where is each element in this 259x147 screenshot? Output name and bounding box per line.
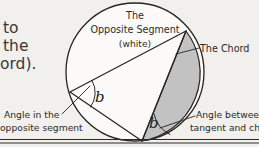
cutoff-line-1: to xyxy=(3,19,19,37)
diagram-page: to the ord). The Opposite Segment (white… xyxy=(0,0,259,147)
opposite-segment-label-line-1: The xyxy=(125,10,144,21)
angle-tangent-chord-label-line-2: tangent and chord xyxy=(190,122,259,133)
angle-in-opposite-segment-label-line-1: Angle in the xyxy=(4,109,60,120)
angle-marker-upper-b: b xyxy=(95,88,105,106)
cutoff-line-3: ord). xyxy=(0,55,36,73)
chord-label: The Chord xyxy=(199,43,249,54)
cutoff-line-2: the xyxy=(3,37,28,55)
opposite-segment-label-line-2: Opposite Segment xyxy=(90,24,179,35)
angle-marker-lower-b: b xyxy=(149,114,159,132)
angle-in-opposite-segment-label-line-2: opposite segment xyxy=(0,122,83,133)
circle-theorem-figure: to the ord). The Opposite Segment (white… xyxy=(0,0,259,147)
angle-tangent-chord-label-line-1: Angle between xyxy=(196,109,259,120)
opposite-segment-label-line-3: (white) xyxy=(119,38,151,49)
